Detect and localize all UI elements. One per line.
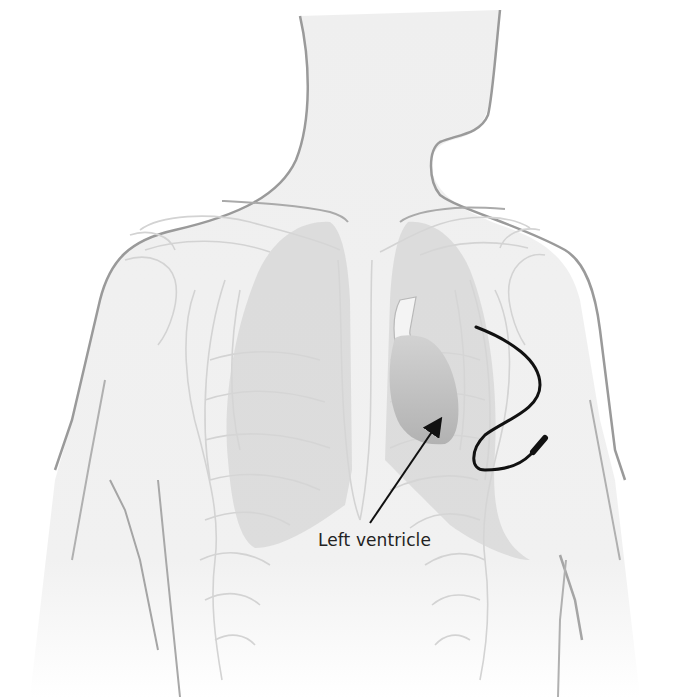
chest-diagram	[0, 0, 674, 697]
left-ventricle-label: Left ventricle	[318, 530, 431, 550]
